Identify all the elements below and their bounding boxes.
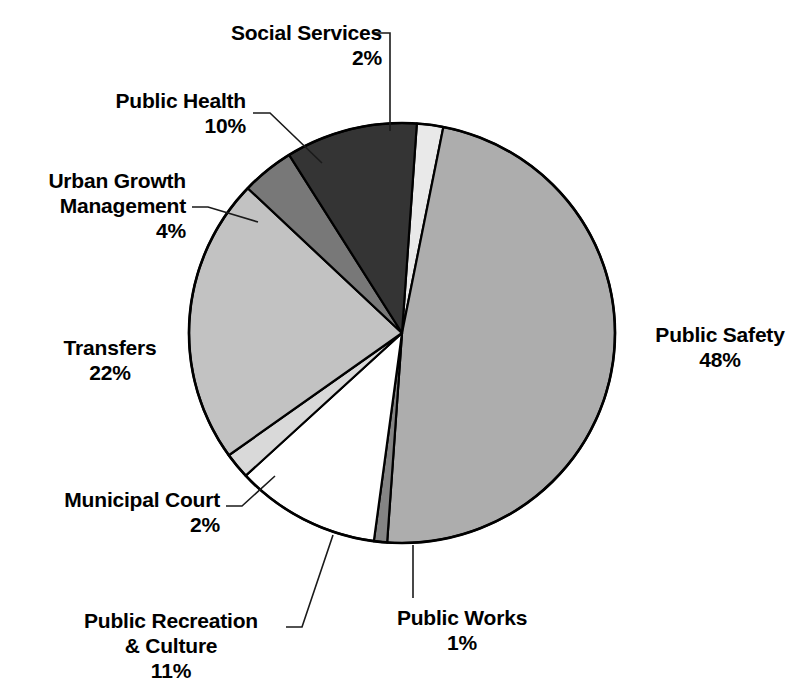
slice-label-transfers: Transfers 22%	[40, 335, 180, 385]
slice-label-municipal-court-name: Municipal Court	[20, 487, 220, 512]
leader-public-recreation	[286, 535, 333, 627]
slice-label-urban-growth-management-pct: 4%	[8, 218, 186, 243]
slice-label-urban-growth-management: Urban Growth Management 4%	[8, 168, 186, 243]
slice-label-transfers-pct: 22%	[40, 360, 180, 385]
slice-label-public-health-pct: 10%	[78, 113, 246, 138]
slice-label-public-works-pct: 1%	[378, 630, 546, 655]
pie-slices	[189, 123, 615, 543]
slice-label-public-works-name: Public Works	[378, 605, 546, 630]
slice-label-transfers-name: Transfers	[40, 335, 180, 360]
slice-label-public-recreation-culture-name-line2: & Culture	[60, 633, 282, 658]
slice-label-public-works: Public Works 1%	[378, 605, 546, 655]
slice-label-social-services: Social Services 2%	[168, 20, 382, 70]
slice-label-social-services-name: Social Services	[168, 20, 382, 45]
slice-label-social-services-pct: 2%	[168, 45, 382, 70]
slice-label-public-recreation-culture-pct: 11%	[60, 658, 282, 683]
slice-label-urban-growth-management-name-line1: Urban Growth	[8, 168, 186, 193]
slice-label-public-health: Public Health 10%	[78, 88, 246, 138]
slice-label-public-recreation-culture-name-line1: Public Recreation	[60, 608, 282, 633]
slice-label-public-health-name: Public Health	[78, 88, 246, 113]
slice-label-public-safety-pct: 48%	[642, 347, 798, 372]
slice-label-municipal-court-pct: 2%	[20, 512, 220, 537]
slice-label-public-recreation-culture: Public Recreation & Culture 11%	[60, 608, 282, 683]
slice-label-municipal-court: Municipal Court 2%	[20, 487, 220, 537]
slice-label-public-safety-name: Public Safety	[642, 322, 798, 347]
pie-chart: Social Services 2% Public Health 10% Urb…	[0, 0, 803, 689]
slice-label-urban-growth-management-name-line2: Management	[8, 193, 186, 218]
slice-label-public-safety: Public Safety 48%	[642, 322, 798, 372]
